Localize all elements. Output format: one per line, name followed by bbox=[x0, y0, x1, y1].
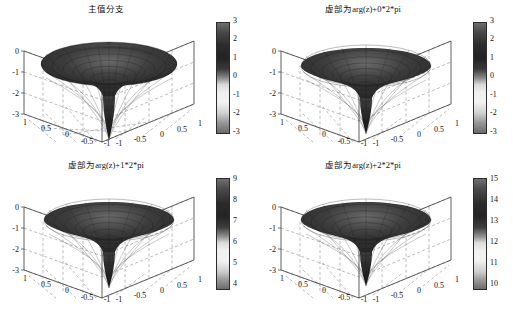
svg-text:-2: -2 bbox=[269, 245, 276, 254]
colorbar-tick: -2 bbox=[233, 108, 240, 118]
svg-text:-1: -1 bbox=[104, 139, 111, 146]
panel-title: 虚部为arg(z)+0*2*pi bbox=[257, 4, 469, 15]
svg-text:1: 1 bbox=[455, 119, 459, 128]
svg-text:-3: -3 bbox=[269, 266, 276, 275]
svg-text:-0.5: -0.5 bbox=[391, 135, 404, 144]
svg-text:0: 0 bbox=[160, 286, 164, 295]
svg-text:0: 0 bbox=[417, 286, 421, 295]
colorbar-tick: 1 bbox=[233, 53, 237, 63]
svg-text:-0.5: -0.5 bbox=[134, 135, 147, 144]
svg-text:-0.5: -0.5 bbox=[81, 293, 94, 302]
svg-text:-1: -1 bbox=[361, 295, 368, 302]
colorbar-gradient bbox=[473, 22, 487, 134]
axes-3d: 0-1 -2-3 10.5 0-0.5 -1 -1-0.5 00.5 1 bbox=[263, 174, 468, 302]
svg-text:-1: -1 bbox=[361, 139, 368, 146]
svg-text:1: 1 bbox=[280, 118, 284, 127]
svg-text:-2: -2 bbox=[12, 245, 19, 254]
colorbar-ticks: 15 14 13 12 11 10 bbox=[490, 172, 513, 296]
colorbar-tick: 1 bbox=[490, 53, 494, 63]
svg-text:0: 0 bbox=[322, 130, 326, 139]
svg-text:-3: -3 bbox=[12, 266, 19, 275]
svg-text:-0.5: -0.5 bbox=[338, 137, 351, 146]
svg-text:0.5: 0.5 bbox=[41, 124, 51, 133]
axes-3d: 0-1 -2-3 10.5 0-0.5 -1 -1-0.5 00.5 1 bbox=[6, 18, 211, 146]
axes-3d: 0-1 -2-3 10.5 0-0.5 -1 -1-0.5 00.5 1 bbox=[6, 174, 211, 302]
colorbar-tick: 10 bbox=[490, 279, 498, 289]
svg-text:-2: -2 bbox=[12, 89, 19, 98]
svg-text:-2: -2 bbox=[269, 89, 276, 98]
colorbar: 3 2 1 0 -1 -2 -3 bbox=[212, 22, 258, 134]
svg-text:0.5: 0.5 bbox=[298, 124, 308, 133]
colorbar: 15 14 13 12 11 10 bbox=[469, 178, 513, 290]
colorbar-tick: -3 bbox=[233, 127, 240, 137]
colorbar-ticks: 3 2 1 0 -1 -2 -3 bbox=[490, 16, 513, 140]
svg-text:0: 0 bbox=[322, 286, 326, 295]
svg-text:0.5: 0.5 bbox=[177, 125, 187, 134]
colorbar-tick: -1 bbox=[490, 90, 497, 100]
colorbar-tick: 6 bbox=[233, 237, 237, 247]
svg-text:0.5: 0.5 bbox=[434, 281, 444, 290]
svg-text:0: 0 bbox=[15, 203, 19, 212]
svg-text:0: 0 bbox=[272, 203, 276, 212]
colorbar-tick: 3 bbox=[233, 16, 237, 26]
colorbar-tick: 2 bbox=[490, 34, 494, 44]
svg-text:1: 1 bbox=[23, 274, 27, 283]
svg-text:-1: -1 bbox=[269, 68, 276, 77]
svg-text:0.5: 0.5 bbox=[41, 280, 51, 289]
svg-text:0.5: 0.5 bbox=[434, 125, 444, 134]
colorbar-tick: 13 bbox=[490, 216, 498, 226]
colorbar: 9 8 7 6 5 4 bbox=[212, 178, 258, 290]
colorbar-tick: -1 bbox=[233, 90, 240, 100]
panel-title: 虚部为arg(z)+2*2*pi bbox=[257, 160, 469, 171]
svg-text:0: 0 bbox=[15, 47, 19, 56]
svg-text:0.5: 0.5 bbox=[177, 281, 187, 290]
svg-text:1: 1 bbox=[280, 274, 284, 283]
colorbar-tick: -3 bbox=[490, 127, 497, 137]
colorbar-tick: 0 bbox=[233, 71, 237, 81]
panel-title: 虚部为arg(z)+1*2*pi bbox=[0, 160, 212, 171]
svg-text:1: 1 bbox=[455, 275, 459, 284]
subplot-panel-2: 虚部为arg(z)+0*2*pi bbox=[257, 0, 513, 155]
svg-text:-1: -1 bbox=[116, 295, 123, 302]
svg-text:-1: -1 bbox=[116, 139, 123, 146]
colorbar-tick: 15 bbox=[490, 174, 498, 184]
colorbar-tick: 14 bbox=[490, 195, 498, 205]
svg-text:0: 0 bbox=[65, 286, 69, 295]
svg-text:-1: -1 bbox=[104, 295, 111, 302]
svg-text:-1: -1 bbox=[269, 224, 276, 233]
svg-text:0: 0 bbox=[272, 47, 276, 56]
svg-text:0: 0 bbox=[65, 130, 69, 139]
svg-text:-0.5: -0.5 bbox=[81, 137, 94, 146]
colorbar-tick: 9 bbox=[233, 174, 237, 184]
colorbar-tick: 5 bbox=[233, 258, 237, 268]
svg-text:-1: -1 bbox=[373, 139, 380, 146]
svg-text:-0.5: -0.5 bbox=[338, 293, 351, 302]
svg-text:1: 1 bbox=[198, 275, 202, 284]
svg-text:-0.5: -0.5 bbox=[134, 291, 147, 300]
svg-text:-3: -3 bbox=[269, 110, 276, 119]
colorbar: 3 2 1 0 -1 -2 -3 bbox=[469, 22, 513, 134]
colorbar-tick: -2 bbox=[490, 108, 497, 118]
svg-text:1: 1 bbox=[198, 119, 202, 128]
colorbar-gradient bbox=[216, 178, 230, 290]
panel-title: 主值分支 bbox=[0, 4, 212, 15]
colorbar-tick: 2 bbox=[233, 34, 237, 44]
axes-3d: 0-1 -2-3 10.5 0-0.5 -1 -1-0.5 00.5 1 bbox=[263, 18, 468, 146]
colorbar-tick: 3 bbox=[490, 16, 494, 26]
colorbar-tick: 7 bbox=[233, 216, 237, 226]
colorbar-gradient bbox=[473, 178, 487, 290]
colorbar-tick: 4 bbox=[233, 279, 237, 289]
svg-text:-1: -1 bbox=[12, 224, 19, 233]
svg-text:-1: -1 bbox=[12, 68, 19, 77]
colorbar-tick: 0 bbox=[490, 71, 494, 81]
matlab-figure-window: 主值分支 bbox=[0, 0, 513, 311]
colorbar-tick: 11 bbox=[490, 258, 498, 268]
subplot-panel-3: 虚部为arg(z)+1*2*pi bbox=[0, 156, 256, 311]
colorbar-tick: 8 bbox=[233, 195, 237, 205]
subplot-panel-1: 主值分支 bbox=[0, 0, 256, 155]
colorbar-ticks: 9 8 7 6 5 4 bbox=[233, 172, 258, 296]
svg-text:-0.5: -0.5 bbox=[391, 291, 404, 300]
svg-text:0: 0 bbox=[160, 130, 164, 139]
colorbar-ticks: 3 2 1 0 -1 -2 -3 bbox=[233, 16, 258, 140]
svg-text:0: 0 bbox=[417, 130, 421, 139]
